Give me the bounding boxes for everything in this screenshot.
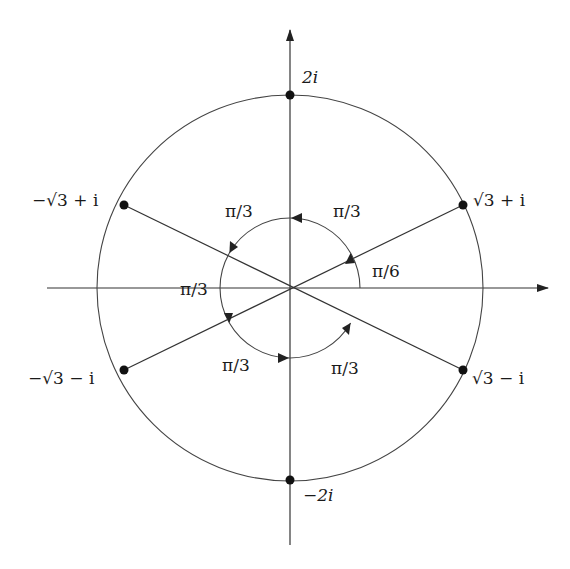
angle-label-bottom-left: π/3 xyxy=(222,355,250,375)
arc-top-left xyxy=(229,218,290,253)
complex-plane-diagram: 2i √3 + i −√3 + i −√3 − i √3 − i −2i π/6… xyxy=(0,0,570,569)
arrowhead-bottom-icon xyxy=(278,353,289,363)
arc-top-right xyxy=(290,218,351,253)
point-neg-sqrt3-plus-i xyxy=(120,201,129,210)
label-neg-sqrt3-plus-i: −√3 + i xyxy=(32,190,99,210)
angle-label-top-left: π/3 xyxy=(225,201,253,221)
label-sqrt3-minus-i: √3 − i xyxy=(472,368,525,388)
label-neg-2i: −2i xyxy=(303,485,334,505)
arrowhead-top-icon xyxy=(291,213,302,223)
arc-bottom-right xyxy=(290,323,351,358)
point-2i xyxy=(286,91,295,100)
point-neg-2i xyxy=(286,476,295,485)
angle-label-pi6: π/6 xyxy=(372,261,400,281)
label-sqrt3-plus-i: √3 + i xyxy=(473,190,526,210)
angle-label-top-right: π/3 xyxy=(333,201,361,221)
arc-bottom-left xyxy=(229,323,290,358)
angle-label-bottom-right: π/3 xyxy=(331,358,359,378)
point-sqrt3-minus-i xyxy=(459,366,468,375)
label-neg-sqrt3-minus-i: −√3 − i xyxy=(28,368,95,388)
label-2i: 2i xyxy=(301,67,318,87)
angle-label-left: π/3 xyxy=(180,279,208,299)
point-neg-sqrt3-minus-i xyxy=(120,366,129,375)
point-sqrt3-plus-i xyxy=(459,201,468,210)
